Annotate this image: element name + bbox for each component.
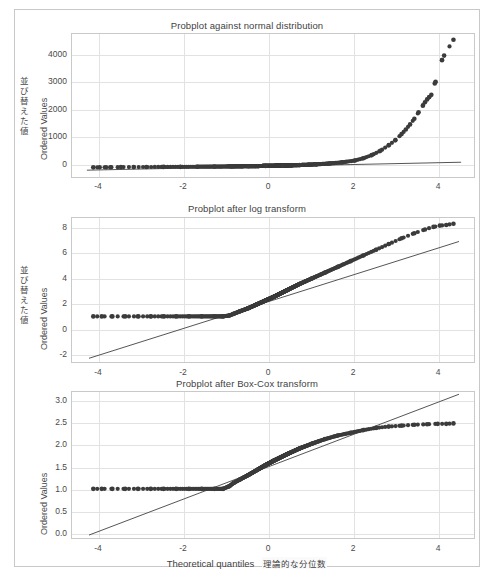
panel-boxcox-data (72, 392, 475, 539)
xtick-label: 0 (266, 181, 271, 191)
panel-normal-axes (71, 33, 475, 178)
panel-log-ylabel-en: Ordered Values (39, 288, 49, 350)
ytick-label: 3000 (43, 76, 67, 86)
xtick-label: 4 (436, 543, 441, 553)
panel-log: Probplot after log transform 対数変換後の確率プロッ… (0, 195, 494, 385)
ytick-label: 3.0 (43, 395, 67, 405)
ytick-label: 0 (43, 159, 67, 169)
ytick-label: 1000 (43, 131, 67, 141)
panel-normal-ylabel-jp: 並び替えた値 (19, 76, 30, 136)
x-axis-label-jp: 理論的な分位数 (262, 557, 327, 569)
panel-log-axes (71, 217, 475, 363)
x-axis-label-en: Theoretical quantiles (167, 558, 255, 569)
panel-boxcox-ylabel-en: Ordered Values (39, 473, 49, 535)
xtick-label: 2 (351, 543, 356, 553)
xtick-label: 2 (351, 181, 356, 191)
probplot-figure: Probplot against normal distribution 正規分… (0, 0, 494, 581)
ytick-label: 8 (47, 222, 67, 232)
panel-boxcox: Probplot after Box-Cox transform Box-Cox… (0, 375, 494, 581)
ytick-label: 4000 (43, 49, 67, 59)
panel-log-data (72, 218, 475, 363)
ytick-label: 4 (47, 273, 67, 283)
panel-log-title: Probplot after log transform (0, 203, 494, 214)
ytick-label: 1.5 (43, 462, 67, 472)
ytick-label: 6 (47, 247, 67, 257)
ytick-label: 2000 (43, 104, 67, 114)
xtick-label: -4 (94, 543, 102, 553)
panel-normal-data (72, 34, 475, 178)
panel-normal: Probplot against normal distribution 正規分… (0, 0, 494, 195)
panel-boxcox-axes (71, 391, 475, 539)
ytick-label: 2.0 (43, 439, 67, 449)
panel-log-ylabel-jp: 並び替えた値 (19, 265, 30, 325)
xtick-label: 0 (266, 543, 271, 553)
xtick-label: -2 (179, 543, 187, 553)
xtick-label: 4 (436, 181, 441, 191)
ytick-label: 0.5 (43, 506, 67, 516)
panel-boxcox-title: Probplot after Box-Cox transform (0, 378, 494, 389)
ytick-label: 2.5 (43, 417, 67, 427)
ytick-label: -2 (47, 349, 67, 359)
x-axis-label: Theoretical quantiles理論的な分位数 (0, 557, 494, 569)
xtick-label: -2 (179, 181, 187, 191)
ytick-label: 2 (47, 298, 67, 308)
ytick-label: 0.0 (43, 528, 67, 538)
xtick-label: -4 (94, 181, 102, 191)
ytick-label: 0 (47, 324, 67, 334)
ytick-label: 1.0 (43, 484, 67, 494)
panel-normal-title: Probplot against normal distribution (0, 20, 494, 31)
